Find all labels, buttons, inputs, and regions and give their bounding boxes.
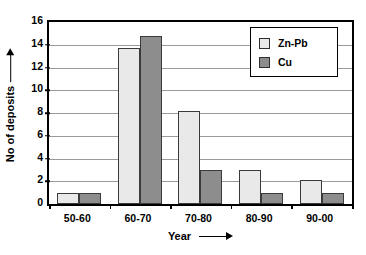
bar-zn-pb-90-00 [300,180,322,204]
bar-cu-50-60 [79,193,101,204]
bar-zn-pb-60-70 [118,48,140,204]
arrow-right-icon [199,232,233,241]
y-axis-tick-labels: 0246810121416 [22,14,46,206]
legend-item-cu: Cu [259,56,329,68]
y-axis-tick-label: 6 [37,128,43,140]
bar-zn-pb-70-80 [178,111,200,204]
legend-item-zn-pb: Zn-Pb [259,37,329,49]
y-axis-title-text: No of deposits [4,86,16,162]
bar-group [110,22,171,204]
y-axis-tick-label: 10 [31,82,43,94]
y-axis-tick-label: 8 [37,105,43,117]
y-axis-tick-label: 0 [37,196,43,208]
y-axis-tick-label: 4 [37,151,43,163]
legend-swatch-zn-pb [259,38,270,49]
x-axis-title-text: Year [168,230,191,242]
x-axis-title: Year [47,230,354,242]
bar-cu-90-00 [322,193,344,204]
bar-cu-70-80 [200,170,222,204]
bar-cu-80-90 [261,193,283,204]
bar-zn-pb-80-90 [239,170,261,204]
legend-label-zn-pb: Zn-Pb [278,37,308,49]
legend-label-cu: Cu [278,56,292,68]
x-axis-tick-label: 80-90 [246,212,273,224]
legend-swatch-cu [259,57,270,68]
x-axis-tick-label: 90-00 [306,212,333,224]
bar-group [49,22,110,204]
x-axis-tick-labels: 50-6060-7070-8080-9090-00 [47,210,354,226]
y-axis-title: No of deposits [0,0,21,210]
x-axis-tick-label: 60-70 [124,212,151,224]
bar-group [170,22,231,204]
bar-chart: No of deposits 0246810121416 50-6060-707… [0,0,366,255]
chart-legend: Zn-Pb Cu [250,27,338,77]
x-axis-tick-mark [291,204,293,209]
x-axis-tick-mark [49,204,51,209]
y-axis-tick-label: 2 [37,173,43,185]
x-axis-tick-label: 50-60 [64,212,91,224]
arrow-right-icon [6,48,15,82]
x-axis-tick-mark [110,204,112,209]
x-axis-tick-label: 70-80 [185,212,212,224]
x-axis-tick-mark [231,204,233,209]
x-axis-tick-mark [170,204,172,209]
bar-cu-60-70 [140,36,162,204]
y-axis-tick-label: 12 [31,60,43,72]
x-axis-tick-mark [352,204,354,209]
y-axis-tick-label: 14 [31,37,43,49]
y-axis-tick-label: 16 [31,14,43,26]
bar-zn-pb-50-60 [57,193,79,204]
